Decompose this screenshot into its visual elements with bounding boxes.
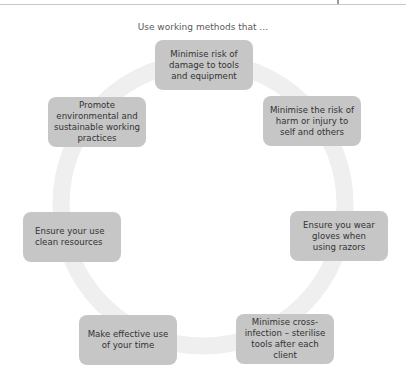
node-label: Promote environmental and sustainable wo…	[53, 100, 141, 144]
node-label: Make effective use of your time	[87, 329, 169, 351]
node-lower-left: Ensure your use clean resources	[23, 212, 121, 262]
node-bottom-left: Make effective use of your time	[79, 315, 177, 365]
node-label: Ensure you wear gloves when using razors	[301, 220, 377, 253]
node-bottom-right: Minimise cross-infection – sterilise too…	[236, 314, 334, 364]
node-label: Ensure your use clean resources	[35, 226, 107, 248]
node-lower-right: Ensure you wear gloves when using razors	[290, 211, 388, 261]
node-upper-left: Promote environmental and sustainable wo…	[48, 97, 146, 147]
node-upper-right: Minimise the risk of harm or injury to s…	[263, 96, 361, 146]
node-top: Minimise risk of damage to tools and equ…	[155, 40, 253, 90]
node-label: Minimise the risk of harm or injury to s…	[268, 105, 356, 138]
node-label: Minimise risk of damage to tools and equ…	[169, 49, 239, 82]
node-label: Minimise cross-infection – sterilise too…	[241, 317, 329, 361]
